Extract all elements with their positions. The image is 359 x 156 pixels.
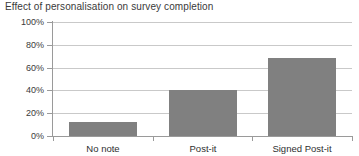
chart-container: Effect of personalisation on survey comp… <box>0 0 359 156</box>
y-axis-tick-label: 0% <box>0 132 44 141</box>
x-axis-category-label: Post-it <box>190 143 217 154</box>
bar <box>268 58 336 136</box>
y-axis-tick-label: 40% <box>0 86 44 95</box>
y-axis-tick-label: 20% <box>0 109 44 118</box>
x-axis-tick <box>53 136 54 141</box>
x-axis-tick <box>252 136 253 141</box>
x-axis-line <box>52 136 352 137</box>
y-axis-tick-label: 80% <box>0 41 44 50</box>
bar <box>69 122 137 136</box>
y-axis-tick-label: 100% <box>0 18 44 27</box>
chart-title: Effect of personalisation on survey comp… <box>5 1 213 13</box>
plot-area <box>53 22 352 136</box>
y-axis-tick-label: 60% <box>0 64 44 73</box>
x-axis-category-label: Signed Post-it <box>272 143 331 154</box>
x-axis-tick <box>153 136 154 141</box>
x-axis-category-label: No note <box>86 143 119 154</box>
x-axis-tick <box>352 136 353 141</box>
bar <box>169 90 237 136</box>
